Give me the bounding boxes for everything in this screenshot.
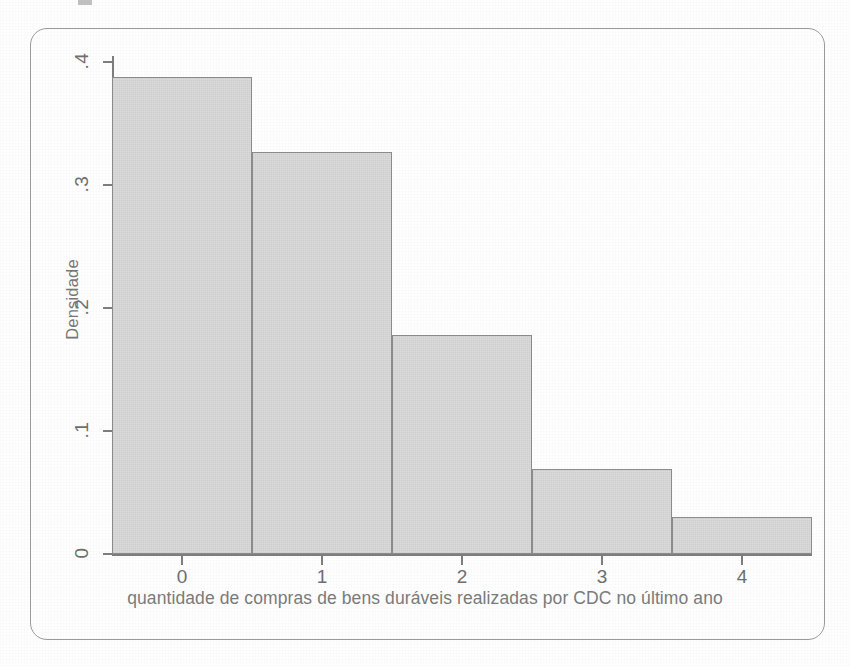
cropped-text-fragment	[78, 0, 92, 5]
scanned-page-background: 0.1.2.3.4 01234 Densidade quantidade de …	[0, 0, 850, 666]
figure-frame	[30, 28, 825, 640]
